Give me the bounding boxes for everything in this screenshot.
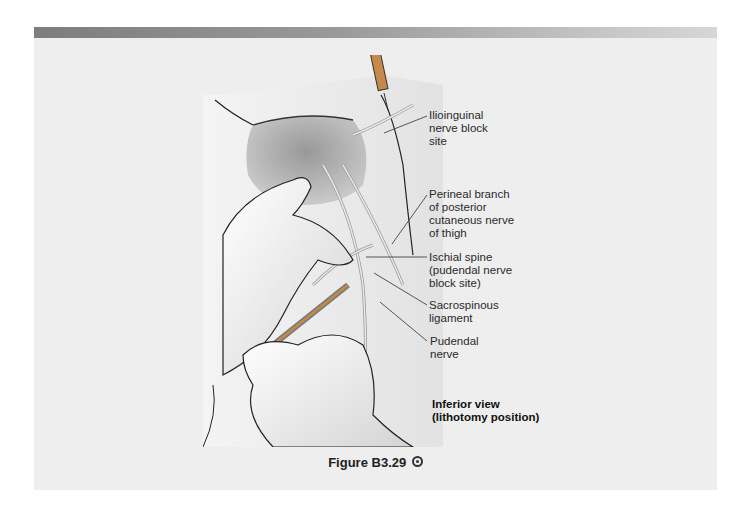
figure-panel: Ilioinguinal nerve block site Perineal b… bbox=[34, 27, 717, 490]
label-sacrospinous-ligament: Sacrospinous ligament bbox=[429, 299, 499, 325]
label-perineal-branch: Perineal branch of posterior cutaneous n… bbox=[429, 188, 514, 240]
caption-text: Figure B3.29 bbox=[328, 455, 406, 470]
leader-lines bbox=[34, 27, 717, 490]
label-ilioinguinal-nerve-block-site: Ilioinguinal nerve block site bbox=[429, 109, 488, 148]
label-ischial-spine: Ischial spine (pudendal nerve block site… bbox=[429, 251, 512, 290]
view-label: Inferior view (lithotomy position) bbox=[432, 398, 539, 424]
figure-caption: Figure B3.29 bbox=[34, 455, 717, 470]
circle-link-icon[interactable] bbox=[412, 456, 423, 467]
label-pudendal-nerve: Pudendal nerve bbox=[430, 335, 479, 361]
